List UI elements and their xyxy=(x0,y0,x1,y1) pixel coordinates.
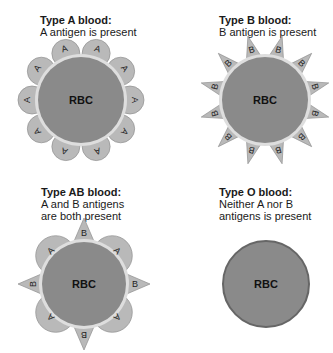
rbc-label: RBC xyxy=(72,278,96,290)
type-a-cell: RBCAAAAAAAAAA xyxy=(18,39,144,160)
rbc-label: RBC xyxy=(69,94,93,106)
antigen-label: A xyxy=(22,97,32,103)
rbc-label: RBC xyxy=(253,94,277,106)
blood-type-diagram: RBCAAAAAAAAAA RBCBBBBBBBBBBBB RBCAAAABBB… xyxy=(0,0,333,353)
antigen-label: B xyxy=(132,279,138,289)
antigen-label: B xyxy=(28,281,38,287)
antigen-label: A xyxy=(130,97,140,103)
antigen-label: B xyxy=(81,330,87,340)
antigen-label: B xyxy=(81,228,87,238)
type-ab-cell: RBCAAAABBBB xyxy=(18,218,150,350)
rbc-label: RBC xyxy=(254,278,278,290)
type-o-cell: RBC xyxy=(223,241,309,327)
type-b-cell: RBCBBBBBBBBBBBB xyxy=(201,36,329,164)
